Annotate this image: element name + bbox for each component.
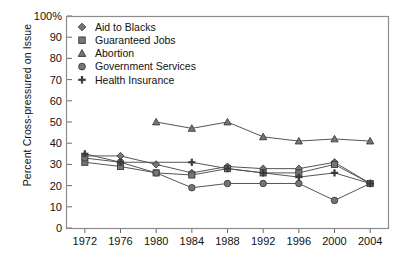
data-point-plus [188, 159, 195, 166]
y-tick-label: 0 [56, 222, 62, 234]
x-tick-label: 1972 [73, 235, 97, 247]
data-point-circle [260, 180, 266, 186]
data-point-circle [79, 63, 86, 70]
y-tick-label: 80 [50, 52, 62, 64]
series-abortion [153, 118, 374, 144]
legend-label: Abortion [95, 47, 134, 59]
data-point-plus [78, 76, 86, 84]
y-tick-label: 90 [50, 31, 62, 43]
x-axis-tick-labels: 197219761980198419881992199620002004 [73, 235, 383, 247]
y-tick-label: 70 [50, 74, 62, 86]
data-point-diamond [78, 23, 86, 31]
data-point-circle [189, 184, 195, 190]
y-tick-label: 100% [34, 10, 62, 22]
data-point-circle [331, 197, 337, 203]
data-point-square [331, 161, 337, 167]
y-tick-label: 40 [50, 137, 62, 149]
data-point-circle [224, 180, 230, 186]
legend-item-government-services[interactable]: Government Services [79, 60, 196, 72]
data-series-layer [81, 118, 374, 203]
legend-item-health-insurance[interactable]: Health Insurance [78, 74, 174, 86]
data-point-plus [331, 169, 338, 176]
legend-label: Health Insurance [95, 74, 175, 86]
chart-container: Percent Cross-pressured on Issue 0102030… [0, 0, 407, 262]
x-tick-label: 1976 [108, 235, 132, 247]
x-tick-label: 1980 [144, 235, 168, 247]
x-tick-label: 1992 [251, 235, 275, 247]
x-tick-label: 1988 [215, 235, 239, 247]
chart-svg: 0102030405060708090100% 1972197619801984… [0, 0, 407, 262]
data-point-square [79, 37, 85, 43]
data-point-diamond [117, 152, 124, 159]
y-tick-label: 20 [50, 180, 62, 192]
x-tick-label: 1996 [287, 235, 311, 247]
data-point-square [189, 172, 195, 178]
data-point-triangle [78, 50, 86, 57]
y-axis-tick-labels: 0102030405060708090100% [34, 10, 62, 234]
legend-item-abortion[interactable]: Abortion [78, 47, 134, 59]
legend-item-aid-to-blacks[interactable]: Aid to Blacks [78, 21, 156, 33]
data-point-circle [153, 170, 159, 176]
y-tick-label: 50 [50, 116, 62, 128]
legend-label: Guaranteed Jobs [95, 34, 176, 46]
data-point-triangle [331, 135, 338, 141]
legend-label: Aid to Blacks [95, 21, 156, 33]
data-point-triangle [153, 118, 160, 124]
x-tick-label: 2004 [358, 235, 382, 247]
data-point-triangle [260, 133, 267, 139]
data-point-triangle [224, 118, 231, 124]
legend-item-guaranteed-jobs[interactable]: Guaranteed Jobs [79, 34, 176, 46]
y-tick-label: 30 [50, 158, 62, 170]
data-point-circle [296, 180, 302, 186]
legend-label: Government Services [95, 60, 196, 72]
y-axis-tick-marks [67, 16, 72, 228]
chart-legend: Aid to BlacksGuaranteed JobsAbortionGove… [78, 21, 196, 86]
y-tick-label: 60 [50, 95, 62, 107]
x-tick-label: 1984 [180, 235, 204, 247]
x-tick-label: 2000 [322, 235, 346, 247]
y-tick-label: 10 [50, 201, 62, 213]
